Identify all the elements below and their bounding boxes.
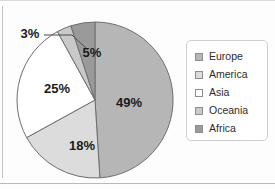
legend-item-america[interactable]: America: [195, 66, 267, 83]
pie-plot-area: 49% 18% 25% 3% 5%: [16, 21, 174, 179]
legend-swatch-icon-oceania: [195, 107, 203, 115]
legend-label-asia: Asia: [209, 87, 229, 98]
legend-item-africa[interactable]: Africa: [195, 120, 267, 137]
pie-label-oceania: 3%: [21, 26, 40, 41]
pie-svg: 49% 18% 25% 3% 5%: [16, 21, 174, 179]
legend-swatch-icon-africa: [195, 125, 203, 133]
pie-label-america: 18%: [69, 138, 95, 153]
legend-swatch-icon-asia: [195, 89, 203, 97]
pie-label-europe: 49%: [116, 95, 142, 110]
legend-swatch-icon-america: [195, 71, 203, 79]
legend-item-oceania[interactable]: Oceania: [195, 102, 267, 119]
legend-swatch-icon-europe: [195, 53, 203, 61]
legend-item-europe[interactable]: Europe: [195, 48, 267, 65]
legend-label-europe: Europe: [209, 51, 243, 62]
pie-label-africa: 5%: [83, 45, 102, 60]
legend-label-america: America: [209, 69, 248, 80]
legend-label-africa: Africa: [209, 123, 236, 134]
legend-item-asia[interactable]: Asia: [195, 84, 267, 101]
pie-label-asia: 25%: [44, 81, 70, 96]
pie-chart-figure: 49% 18% 25% 3% 5% Europe America Asia Oc…: [0, 0, 275, 189]
legend-label-oceania: Oceania: [209, 105, 248, 116]
figure-frame-bottom-border: [0, 183, 275, 184]
figure-frame-left-border: [2, 6, 3, 178]
figure-frame-top-border: [0, 0, 275, 1]
chart-legend: Europe America Asia Oceania Africa: [186, 40, 268, 141]
